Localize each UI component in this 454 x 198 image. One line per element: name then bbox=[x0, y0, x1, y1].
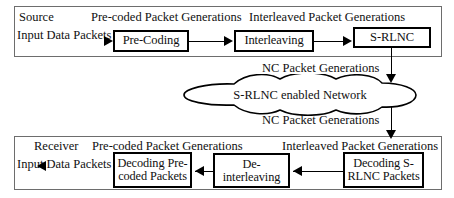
receiver-input-data-packets-label: Input Data Packets bbox=[17, 158, 111, 171]
arrowhead-right-icon bbox=[224, 36, 233, 46]
receiver-section-label: Receiver bbox=[34, 140, 78, 153]
receiver-interleaved-packet-generations-label: Interleaved Packet Generations bbox=[282, 140, 438, 153]
arrowhead-right-icon bbox=[343, 36, 352, 46]
arrowhead-down-icon bbox=[386, 74, 396, 83]
source-precoded-packet-generations-label: Pre-coded Packet Generations bbox=[91, 11, 242, 24]
arrowhead-left-icon bbox=[37, 161, 46, 171]
arrowhead-down-icon bbox=[386, 130, 396, 139]
connector-srlnc-to-network bbox=[391, 48, 392, 76]
arrowhead-right-icon bbox=[104, 36, 113, 46]
s-rlnc-box[interactable]: S-RLNC bbox=[353, 27, 431, 48]
arrowhead-left-icon bbox=[195, 166, 204, 176]
interleaving-box[interactable]: Interleaving bbox=[234, 30, 314, 52]
de-interleaving-box[interactable]: De-interleaving bbox=[213, 153, 290, 188]
decoding-pre-coded-packets-box[interactable]: Decoding Pre-coded Packets bbox=[113, 152, 192, 188]
network-label: S-RLNC enabled Network bbox=[176, 88, 424, 103]
pre-coding-box[interactable]: Pre-Coding bbox=[113, 30, 189, 52]
source-input-data-packets-label: Input Data Packets bbox=[17, 29, 111, 42]
source-section-label: Source bbox=[19, 11, 54, 24]
diagram-canvas: Source Input Data Packets Pre-coded Pack… bbox=[0, 0, 454, 198]
nc-packet-generations-bottom-label: NC Packet Generations bbox=[262, 114, 379, 127]
receiver-precoded-packet-generations-label: Pre-coded Packet Generations bbox=[92, 140, 243, 153]
decoding-s-rlnc-packets-box[interactable]: Decoding S-RLNC Packets bbox=[343, 152, 424, 188]
arrowhead-left-icon bbox=[293, 166, 302, 176]
nc-packet-generations-top-label: NC Packet Generations bbox=[262, 62, 379, 75]
source-interleaved-packet-generations-label: Interleaved Packet Generations bbox=[249, 11, 405, 24]
